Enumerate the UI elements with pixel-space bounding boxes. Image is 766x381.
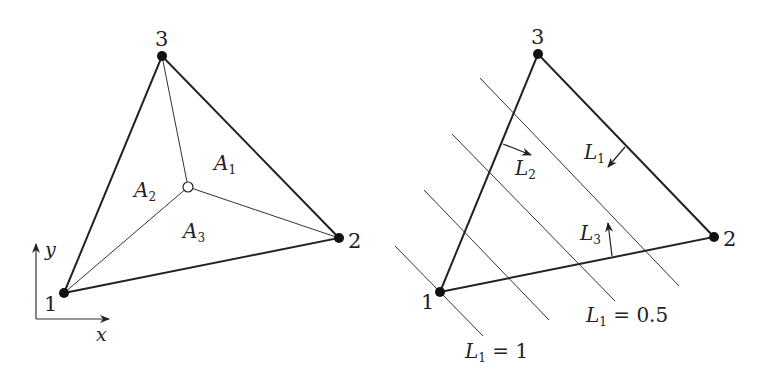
l2-direction-arrow: [503, 144, 531, 155]
right-node-3-label: 3: [531, 25, 544, 49]
x-axis-label: x: [96, 323, 107, 345]
left-node-2-label: 2: [348, 229, 361, 253]
left-node-3-dot: [157, 51, 167, 61]
right-node-2-label: 2: [723, 227, 736, 251]
area-label-a1: A1: [212, 151, 236, 177]
arrow-label-l2: L2: [514, 156, 536, 182]
inner-line-to-node-1: [64, 187, 188, 293]
left-node-1-label: 1: [44, 292, 57, 316]
interior-point-circle: [183, 182, 193, 192]
left-figure-area-coordinates: 1 2 3 A1 A2 A3 y x: [36, 27, 361, 345]
right-node-1-dot: [435, 287, 445, 297]
contour-line-a: [480, 78, 679, 286]
right-node-3-dot: [533, 49, 543, 59]
right-node-1-label: 1: [421, 290, 434, 314]
inner-line-to-node-3: [162, 56, 188, 187]
diagram-canvas: 1 2 3 A1 A2 A3 y x 1 2 3 L1: [0, 0, 766, 381]
left-node-1-dot: [59, 288, 69, 298]
left-node-2-dot: [334, 233, 344, 243]
arrow-label-l1: L1: [583, 140, 605, 166]
l3-direction-arrow: [608, 223, 612, 256]
right-node-2-dot: [709, 232, 719, 242]
arrow-label-l3: L3: [579, 221, 601, 247]
right-figure-contour-lines: 1 2 3 L1 L2 L3 L1 = 0.5 L1 = 1: [395, 25, 736, 365]
area-label-a3: A3: [181, 219, 205, 245]
right-triangle: [440, 54, 714, 292]
contour-label-l1-0-5: L1 = 0.5: [585, 303, 668, 329]
contour-label-l1-1: L1 = 1: [464, 339, 528, 365]
area-label-a2: A2: [132, 178, 156, 204]
contour-line-c: [424, 190, 549, 320]
inner-line-to-node-2: [188, 187, 339, 238]
left-node-3-label: 3: [155, 27, 168, 51]
l1-direction-arrow: [608, 147, 625, 167]
y-axis-label: y: [44, 238, 56, 260]
